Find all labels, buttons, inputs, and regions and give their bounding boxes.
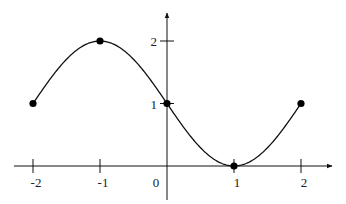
- tick-labels: -2-101212: [31, 34, 308, 190]
- x-tick-label: 2: [301, 175, 308, 190]
- y-tick-label: 2: [151, 34, 158, 49]
- y-tick-label: 1: [151, 97, 158, 112]
- axes: [14, 13, 332, 200]
- data-point: [230, 162, 237, 169]
- data-point: [163, 100, 170, 107]
- x-tick-label: -1: [98, 175, 109, 190]
- x-tick-label: -2: [31, 175, 42, 190]
- origin-label: 0: [153, 175, 160, 190]
- data-point: [29, 100, 36, 107]
- function-plot: -2-101212: [0, 0, 346, 204]
- x-tick-label: 1: [234, 175, 241, 190]
- data-point: [297, 100, 304, 107]
- data-point: [96, 37, 103, 44]
